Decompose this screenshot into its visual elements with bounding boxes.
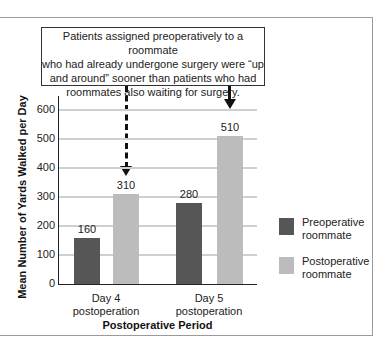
legend-line: Preoperative — [302, 216, 364, 229]
bar-value-label: 280 — [169, 188, 209, 200]
xtick-line: Day 5 — [164, 292, 254, 305]
callout-line: Patients assigned preoperatively to a ro… — [42, 29, 264, 57]
bar-value-label: 510 — [210, 121, 250, 133]
legend-swatch-preoperative — [279, 218, 294, 235]
xtick-day4: Day 4 postoperation — [61, 292, 151, 318]
ytick-label: 300 — [33, 190, 55, 202]
callout-line: and around” sooner than patients who had — [42, 71, 264, 85]
xtick-line: Day 4 — [61, 292, 151, 305]
bar-value-label: 310 — [106, 179, 146, 191]
x-axis — [58, 284, 257, 285]
solid-arrow-shaft — [228, 86, 231, 100]
xtick-line: postoperation — [61, 305, 151, 318]
legend-swatch-postoperative — [279, 257, 294, 274]
legend-line: roommate — [302, 229, 364, 242]
ytick-label: 0 — [33, 277, 55, 289]
ytick-label: 200 — [33, 219, 55, 231]
bar-day5-postoperative — [217, 136, 243, 284]
legend-label-postoperative: Postoperative roommate — [302, 255, 369, 281]
y-axis — [58, 96, 59, 285]
legend-label-preoperative: Preoperative roommate — [302, 216, 364, 242]
bar-day4-postoperative — [113, 194, 139, 284]
solid-arrow-head-icon — [224, 99, 236, 109]
xtick-line: postoperation — [164, 305, 254, 318]
callout-box: Patients assigned preoperatively to a ro… — [41, 27, 265, 86]
ytick-label: 400 — [33, 161, 55, 173]
gridline-600 — [59, 109, 257, 111]
xtick-day5: Day 5 postoperation — [164, 292, 254, 318]
bar-value-label: 160 — [67, 223, 107, 235]
ytick-label: 500 — [33, 132, 55, 144]
ytick-label: 600 — [33, 103, 55, 115]
legend-line: roommate — [302, 268, 369, 281]
ytick-label: 100 — [33, 248, 55, 260]
y-axis-title: Mean Number of Yards Walked per Day — [16, 95, 28, 299]
bar-day4-preoperative — [74, 238, 100, 284]
callout-line: who had already undergone surgery were “… — [42, 57, 264, 71]
dashed-arrow-shaft — [125, 86, 128, 168]
legend-line: Postoperative — [302, 255, 369, 268]
bar-day5-preoperative — [176, 203, 202, 284]
x-axis-title: Postoperative Period — [58, 319, 257, 331]
